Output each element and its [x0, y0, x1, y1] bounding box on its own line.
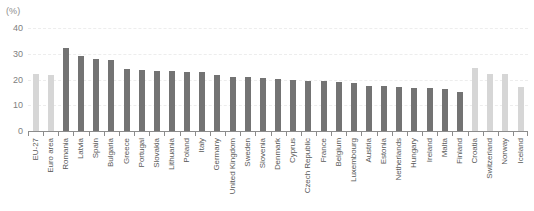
x-axis-category-label: Poland [183, 138, 191, 163]
x-axis-category-label: Switzerland [486, 138, 494, 179]
x-axis-category-label: Croatia [471, 138, 479, 163]
x-axis-category: Slovakia [149, 131, 164, 211]
bar-slot [271, 28, 286, 131]
x-axis-category-label: Netherlands [395, 138, 403, 181]
x-axis-category: Portugal [134, 131, 149, 211]
x-axis-category: Belgium [331, 131, 346, 211]
bar [48, 75, 54, 131]
bar [93, 59, 99, 131]
bar [169, 71, 175, 131]
bar-slot [483, 28, 498, 131]
x-axis-category: EU-27 [28, 131, 43, 211]
bar [518, 87, 524, 131]
x-axis-category-label: Portugal [138, 138, 146, 167]
bar-slot [58, 28, 73, 131]
x-axis-category-label: France [320, 138, 328, 163]
x-axis-category: Sweden [240, 131, 255, 211]
x-axis-category-label: Norway [501, 138, 509, 165]
bar-slot [377, 28, 392, 131]
x-axis-category: United Kingdom [225, 131, 240, 211]
x-axis-category-label: Spain [92, 138, 100, 158]
bar-slot [452, 28, 467, 131]
x-axis-category-label: Euro area [47, 138, 55, 173]
bar [457, 92, 463, 131]
x-axis-category: Luxembourg [346, 131, 361, 211]
bar-slot [331, 28, 346, 131]
bar [472, 68, 478, 131]
plot-area [28, 28, 528, 131]
bar-slot [28, 28, 43, 131]
x-axis-category-label: Malta [441, 138, 449, 157]
y-axis-tick-labels: 010203040 [0, 28, 26, 131]
x-axis-category: Spain [89, 131, 104, 211]
x-axis-category: Ireland [422, 131, 437, 211]
x-axis-category-label: Greece [123, 138, 131, 164]
x-axis-category-label: Slovakia [153, 138, 161, 168]
bar-slot [149, 28, 164, 131]
bar-slot [164, 28, 179, 131]
bar-slot [407, 28, 422, 131]
x-axis-category: Bulgaria [104, 131, 119, 211]
bar-slot [43, 28, 58, 131]
x-axis-category-label: Luxembourg [350, 138, 358, 182]
chart-title-cutoff [0, 0, 534, 6]
bar [487, 74, 493, 131]
bar [33, 74, 39, 131]
x-axis-category: Malta [437, 131, 452, 211]
bar [411, 88, 417, 131]
x-axis-category-label: Hungary [410, 138, 418, 168]
x-axis-category: Finland [452, 131, 467, 211]
bar [396, 87, 402, 131]
x-axis-category: Cyprus [286, 131, 301, 211]
bar-slot [422, 28, 437, 131]
x-axis-category-label: Germany [213, 138, 221, 171]
x-axis-category: Denmark [271, 131, 286, 211]
x-axis-category-label: Finland [456, 138, 464, 164]
y-axis-tick-label: 10 [13, 101, 23, 110]
bar-slot [240, 28, 255, 131]
x-axis-category-label: Iceland [517, 138, 525, 163]
bar-slot [361, 28, 376, 131]
bar [305, 81, 311, 131]
x-axis-category: Italy [195, 131, 210, 211]
bar-slot [255, 28, 270, 131]
x-axis-category: Iceland [513, 131, 528, 211]
bar [290, 80, 296, 131]
bar [108, 60, 114, 131]
x-axis-category-label: Lithuania [168, 138, 176, 170]
x-axis-category: France [316, 131, 331, 211]
bar [502, 74, 508, 131]
bar [321, 81, 327, 131]
bar-slot [73, 28, 88, 131]
bar [275, 79, 281, 131]
x-axis-category: Germany [210, 131, 225, 211]
bar [381, 86, 387, 131]
bar-slot [301, 28, 316, 131]
bar-slot [225, 28, 240, 131]
bar [124, 69, 130, 131]
bar [230, 77, 236, 131]
y-axis-tick-label: 0 [18, 127, 23, 136]
bar-slot [134, 28, 149, 131]
x-axis-category: Austria [361, 131, 376, 211]
bar-slot [89, 28, 104, 131]
bar-slot [195, 28, 210, 131]
x-axis-category-label: Latvia [77, 138, 85, 159]
x-axis-category-label: Cyprus [289, 138, 297, 163]
x-axis-category: Latvia [73, 131, 88, 211]
x-axis-category: Romania [58, 131, 73, 211]
x-axis-category-label: EU-27 [32, 138, 40, 160]
x-axis-category: Norway [498, 131, 513, 211]
x-axis-category-label: Italy [198, 138, 206, 152]
bar [63, 48, 69, 131]
bar [154, 71, 160, 131]
x-axis-category: Estonia [377, 131, 392, 211]
bar-slot [498, 28, 513, 131]
x-axis-category: Hungary [407, 131, 422, 211]
x-axis-category-label: Czech Republic [304, 138, 312, 193]
bar-slot [210, 28, 225, 131]
x-axis-category-labels: EU-27Euro areaRomaniaLatviaSpainBulgaria… [28, 131, 528, 211]
x-axis-category-label: Ireland [426, 138, 434, 162]
bar-slot [180, 28, 195, 131]
x-axis-category: Slovenia [255, 131, 270, 211]
